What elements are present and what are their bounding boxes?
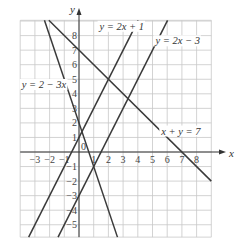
y-tick-label: 8 [72,30,77,41]
x-tick-label: −3 [30,154,41,165]
y-tick-label: −1 [66,161,77,172]
coordinate-plane: xy −3−2−112345678−5−4−3−2−1123456780 y =… [0,0,235,250]
x-tick-label: 6 [165,154,170,165]
y-tick-label: 5 [72,74,77,85]
x-tick-label: 5 [150,154,155,165]
y-tick-label: 2 [72,117,77,128]
axes: xy [20,3,234,237]
equation-labels: y = 2x + 1y = 2x − 3y = 2 − 3xx + y = 7 [20,21,203,137]
equation-label: y = 2x + 1 [99,21,145,32]
y-tick-label: −2 [66,176,77,187]
y-axis-label: y [69,3,75,15]
x-tick-label: −2 [44,154,55,165]
x-tick-label: 8 [194,154,199,165]
x-axis-arrow-icon [219,150,226,155]
y-tick-label: −5 [66,219,77,230]
graph-line-y-2x-1 [29,20,139,237]
y-tick-label: 6 [72,59,77,70]
y-tick-label: −3 [66,190,77,201]
x-tick-label: 7 [179,154,184,165]
x-axis-label: x [228,147,234,159]
y-tick-label: 4 [72,88,77,99]
y-axis-arrow-icon [77,8,82,15]
x-tick-label: 4 [135,154,140,165]
equation-label: y = 2x − 3 [154,35,200,46]
equation-label: y = 2 − 3x [21,79,67,90]
equation-label: x + y = 7 [160,126,201,137]
x-tick-label: 2 [106,154,111,165]
x-tick-label: 3 [121,154,126,165]
